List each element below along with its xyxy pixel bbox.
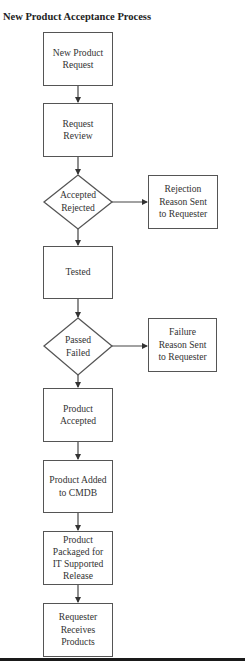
node-product-accepted: Product Accepted xyxy=(43,388,113,442)
decision-label-pass: Passed Failed xyxy=(44,334,112,359)
node-failure-reason: Failure Reason Sent to Requester xyxy=(148,318,217,372)
node-rejection-reason: Rejection Reason Sent to Requester xyxy=(148,175,218,229)
node-requester-receives: Requester Receives Products xyxy=(43,603,113,657)
node-label: Product Accepted xyxy=(60,403,96,428)
node-new-product-request: New Product Request xyxy=(43,32,113,86)
node-label: Product Packaged for IT Supported Releas… xyxy=(53,534,104,582)
node-label: Request Review xyxy=(63,118,94,143)
node-product-packaged: Product Packaged for IT Supported Releas… xyxy=(43,531,113,585)
node-label: Rejection Reason Sent to Requester xyxy=(159,183,207,221)
bottom-rule xyxy=(0,658,245,661)
node-tested: Tested xyxy=(43,246,113,299)
node-label: New Product Request xyxy=(53,47,103,72)
node-label: Product Added to CMDB xyxy=(49,474,106,499)
node-label: Tested xyxy=(66,266,91,279)
node-label: Requester Receives Products xyxy=(59,611,97,649)
decision-label-accept: Accepted Rejected xyxy=(44,189,112,214)
node-label: Failure Reason Sent to Requester xyxy=(158,326,206,364)
node-request-review: Request Review xyxy=(43,103,113,157)
node-product-added-cmdb: Product Added to CMDB xyxy=(43,460,113,513)
